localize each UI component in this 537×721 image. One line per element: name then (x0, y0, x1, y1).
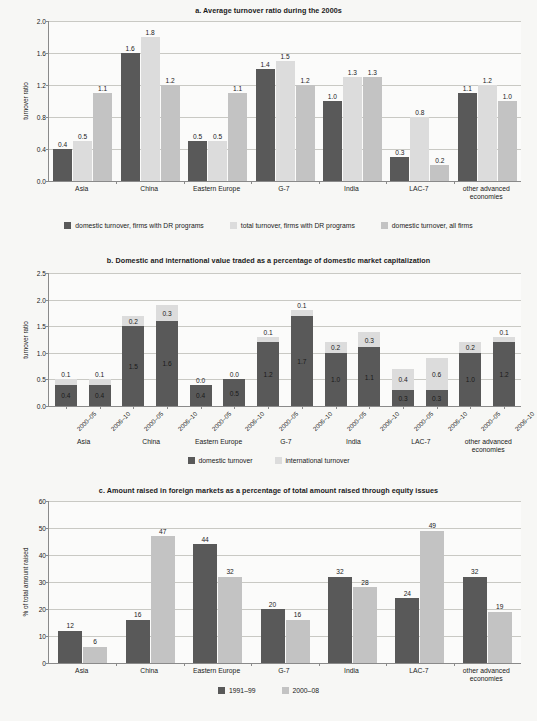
bar-segment (257, 337, 279, 342)
bar: 1.0 (498, 101, 517, 181)
x-period-label: 2006–10 (378, 410, 400, 432)
x-tick-mark (184, 181, 185, 184)
legend-item[interactable]: domestic turnover (188, 457, 253, 464)
x-category-label: Eastern Europe (183, 185, 250, 193)
x-category-label: India (318, 667, 385, 675)
bar: 47 (151, 536, 175, 663)
chart-b-legend: domestic turnoverinternational turnover (0, 457, 537, 464)
legend-item[interactable]: domestic turnover, firms with DR program… (64, 222, 203, 229)
x-category-label: China (115, 185, 182, 193)
bar-value-label: 20 (251, 601, 295, 608)
bar: 28 (353, 587, 377, 663)
chart-a-plot-area: turnover ratio0.00.40.81.21.62.00.40.51.… (0, 15, 537, 205)
legend-label: 1991–99 (229, 687, 255, 694)
gridline (49, 609, 521, 610)
legend-item[interactable]: 2000–08 (282, 687, 319, 694)
gridline (49, 582, 521, 583)
bar: 1.3 (363, 77, 382, 181)
legend-item[interactable]: 1991–99 (218, 687, 255, 694)
y-tick-mark (46, 528, 49, 529)
bar: 6 (83, 647, 107, 663)
legend-item[interactable]: international turnover (275, 457, 350, 464)
legend-label: domestic turnover (199, 457, 253, 464)
y-tick-mark (46, 379, 49, 380)
bar: 44 (193, 544, 217, 663)
segment-value-label: 0.3 (358, 337, 380, 344)
x-tick-mark (454, 663, 455, 666)
x-category-label: other advanced economies (453, 185, 520, 202)
segment-value-label: 1.0 (325, 376, 347, 383)
y-tick-label: 30 (39, 579, 46, 586)
segment-value-label: 1.2 (493, 371, 515, 378)
y-tick-mark (46, 582, 49, 583)
segment-value-label: 0.1 (493, 329, 515, 336)
bar: 1.0 (323, 101, 342, 181)
y-tick-mark (46, 501, 49, 502)
legend-item[interactable]: domestic turnover, all firms (381, 222, 473, 229)
x-tick-mark (302, 406, 303, 409)
y-axis-label: % of total amount raised (22, 548, 29, 617)
bar-value-label: 0.8 (400, 109, 439, 116)
chart-b-plot-area: turnover ratio0.00.51.01.52.02.50.40.10.… (0, 265, 537, 468)
bar-segment (55, 379, 77, 384)
x-tick-mark (386, 181, 387, 184)
segment-value-label: 0.4 (392, 376, 414, 383)
bar: 0.5 (208, 141, 227, 181)
bar-value-label: 1.1 (83, 85, 122, 92)
bar-value-label: 6 (73, 638, 117, 645)
segment-value-label: 0.1 (55, 371, 77, 378)
x-category-label: India (318, 185, 385, 193)
bar-segment (291, 310, 313, 315)
figure-page: a. Average turnover ratio during the 200… (0, 0, 537, 721)
y-tick-label: 0.5 (37, 376, 46, 383)
y-tick-label: 0 (42, 660, 46, 667)
x-tick-mark (369, 406, 370, 409)
segment-value-label: 0.3 (156, 310, 178, 317)
chart-panel-c: c. Amount raised in foreign markets as a… (0, 480, 537, 721)
stacked-bar: 0.40.0 (190, 385, 212, 406)
bar-value-label: 1.8 (131, 29, 170, 36)
segment-value-label: 0.1 (89, 371, 111, 378)
y-tick-mark (46, 663, 49, 664)
legend-swatch-icon (218, 687, 225, 694)
x-category-label: LAC-7 (385, 667, 452, 675)
x-category-label: Asia (48, 667, 115, 675)
x-tick-mark (201, 406, 202, 409)
bar: 1.1 (228, 93, 247, 181)
y-tick-label: 1.6 (37, 50, 46, 57)
bar: 1.6 (121, 53, 140, 181)
bar: 1.4 (256, 69, 275, 181)
y-tick-label: 50 (39, 525, 46, 532)
chart-b-title: b. Domestic and international value trad… (0, 248, 537, 265)
gridline (49, 353, 521, 354)
bar: 24 (395, 598, 419, 663)
x-tick-mark (386, 663, 387, 666)
plot-frame: 0.00.40.81.21.62.00.40.51.11.61.81.20.50… (48, 21, 521, 182)
x-tick-mark (470, 406, 471, 409)
bar-value-label: 32 (208, 568, 252, 575)
bar-value-label: 44 (183, 536, 227, 543)
bar-value-label: 1.0 (488, 93, 527, 100)
segment-value-label: 1.2 (257, 371, 279, 378)
bar: 16 (126, 620, 150, 663)
legend-swatch-icon (64, 222, 71, 229)
segment-value-label: 0.3 (426, 395, 448, 402)
y-tick-mark (46, 21, 49, 22)
x-period-label: 2000–05 (75, 410, 97, 432)
y-tick-mark (46, 636, 49, 637)
x-period-label: 2000–05 (412, 410, 434, 432)
y-tick-label: 1.5 (37, 323, 46, 330)
bar-value-label: 32 (453, 568, 497, 575)
y-tick-label: 1.2 (37, 82, 46, 89)
y-tick-label: 1.0 (37, 349, 46, 356)
legend-item[interactable]: total turnover, firms with DR programs (230, 222, 355, 229)
bar-value-label: 47 (141, 528, 185, 535)
x-category-label: G-7 (250, 185, 317, 193)
chart-panel-a: a. Average turnover ratio during the 200… (0, 0, 537, 248)
y-axis-label: turnover ratio (22, 321, 29, 359)
bar-value-label: 28 (343, 579, 387, 586)
group-bracket-label: other advanced economies (449, 438, 528, 455)
bar-value-label: 1.2 (468, 77, 507, 84)
x-period-label: 2000–05 (345, 410, 367, 432)
y-tick-label: 0.8 (37, 114, 46, 121)
